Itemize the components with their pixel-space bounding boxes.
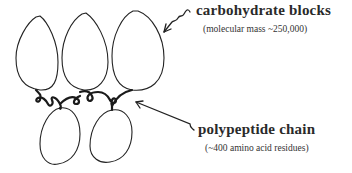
polypeptide-chain	[36, 90, 132, 110]
carbohydrate-block-5	[90, 110, 132, 163]
carbohydrate-block-1	[16, 16, 58, 90]
carbohydrate-block-2	[62, 13, 108, 90]
carbohydrate-block-3	[112, 11, 164, 90]
carbohydrate-mass-label: (molecular mass ~250,000)	[203, 24, 307, 34]
polypeptide-arrow-icon	[136, 102, 194, 130]
polypeptide-chain-label: polypeptide chain	[198, 121, 315, 138]
carbohydrate-blocks-label: carbohydrate blocks	[196, 2, 331, 19]
carbohydrate-arrow-icon	[164, 10, 190, 32]
arrows	[136, 10, 194, 130]
polypeptide-residues-label: (~400 amino acid residues)	[205, 143, 309, 153]
carbohydrate-block-4	[40, 108, 80, 165]
